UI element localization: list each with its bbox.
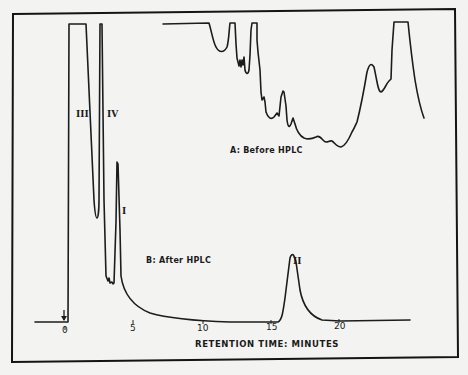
- trace-b-label: B: After HPLC: [146, 256, 211, 265]
- peak-label-iii: III: [76, 109, 89, 119]
- tick-label-15: 15: [266, 322, 277, 332]
- trace-a-label: A: Before HPLC: [230, 146, 303, 155]
- tick-label-10: 10: [197, 323, 209, 333]
- trace-b-after-hplc: [35, 24, 410, 322]
- chromatogram-figure: 0 5 10 15 20 RETENTION TIME: MINUTES III…: [0, 0, 468, 375]
- tick-label-0: 0: [62, 325, 68, 335]
- tick-label-5: 5: [130, 323, 136, 333]
- tick-label-20: 20: [334, 321, 346, 331]
- peak-label-ii: II: [293, 256, 301, 266]
- x-axis-title: RETENTION TIME: MINUTES: [195, 339, 339, 349]
- trace-a-before-hplc: [163, 22, 424, 147]
- chromatogram-svg: 0 5 10 15 20 RETENTION TIME: MINUTES III…: [0, 0, 468, 375]
- injection-arrow-icon: [61, 310, 67, 321]
- peak-label-iv: IV: [107, 109, 119, 119]
- peak-label-i: I: [122, 206, 126, 216]
